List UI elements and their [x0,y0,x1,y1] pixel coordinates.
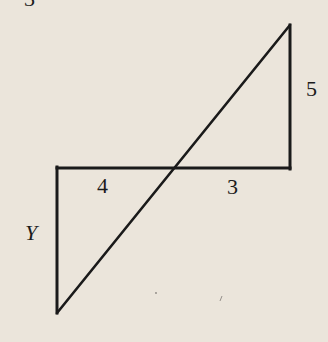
label-five: 5 [306,76,317,101]
paper-speck [155,292,157,294]
label-y: Y [25,220,40,245]
triangles-figure: 3 5 4 3 Y [0,0,328,342]
diagram-canvas: 3 5 4 3 Y [0,0,328,342]
label-four: 4 [97,173,108,198]
paper-speck [220,296,222,301]
cropped-top-glyph: 3 [24,0,35,11]
label-three: 3 [227,174,238,199]
